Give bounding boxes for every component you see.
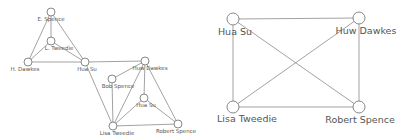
node-bob-spence[interactable]: Bob Spence (102, 75, 135, 90)
node-label: Robert Spence (156, 128, 197, 135)
node-label: Hua Su (136, 102, 156, 108)
node-label: Robert Spence (325, 114, 395, 125)
node-label: H. Dawkes (11, 66, 40, 72)
node-circle[interactable] (24, 58, 32, 66)
diagram-canvas: E. SpenceL. TweedieH. DawkesHua SuHuw Da… (0, 0, 414, 140)
node-h-dawkes[interactable]: H. Dawkes (11, 58, 40, 72)
node-label: Hua Su (218, 26, 252, 37)
edge-hua-su-huw-dawkes (233, 18, 359, 19)
node-circle[interactable] (47, 37, 55, 45)
node-circle[interactable] (140, 94, 148, 102)
node-label: Lisa Tweedie (217, 113, 277, 124)
node-hua-su[interactable]: Hua Su (218, 13, 252, 37)
node-huw-dawkes[interactable]: Huw Dawkes (336, 12, 397, 36)
node-circle[interactable] (81, 58, 89, 66)
node-circle[interactable] (109, 122, 117, 130)
node-label: Huw Dawkes (132, 65, 167, 71)
node-circle[interactable] (227, 101, 239, 113)
node-circle[interactable] (47, 8, 55, 16)
node-label: Huw Dawkes (336, 25, 397, 36)
node-circle[interactable] (174, 120, 182, 128)
edge-hua-su-1-huw-dawkes (85, 61, 145, 62)
left-graph: E. SpenceL. TweedieH. DawkesHua SuHuw Da… (11, 8, 197, 136)
right-graph-nodes: Hua SuHuw DawkesLisa TweedieRobert Spenc… (217, 12, 396, 125)
node-e-spence[interactable]: E. Spence (37, 8, 65, 23)
right-graph: Hua SuHuw DawkesLisa TweedieRobert Spenc… (217, 12, 396, 125)
edge-lisa-tweedie-robert-spence (113, 124, 178, 126)
node-robert-spence[interactable]: Robert Spence (325, 101, 395, 125)
node-hua-su-2[interactable]: Hua Su (136, 94, 156, 108)
node-lisa-tweedie[interactable]: Lisa Tweedie (217, 101, 277, 124)
node-circle[interactable] (108, 75, 116, 83)
node-circle[interactable] (353, 101, 365, 113)
node-robert-spence[interactable]: Robert Spence (156, 120, 197, 135)
node-lisa-tweedie[interactable]: Lisa Tweedie (100, 122, 135, 136)
node-circle[interactable] (353, 12, 365, 24)
node-circle[interactable] (227, 13, 239, 25)
node-label: E. Spence (37, 16, 65, 23)
node-label: L. Tweedie (45, 45, 74, 51)
node-circle[interactable] (141, 57, 149, 65)
node-hua-su-1[interactable]: Hua Su (77, 58, 97, 72)
node-label: Lisa Tweedie (100, 130, 135, 136)
node-label: Bob Spence (102, 83, 135, 90)
node-label: Hua Su (77, 66, 97, 72)
node-huw-dawkes[interactable]: Huw Dawkes (132, 57, 167, 71)
